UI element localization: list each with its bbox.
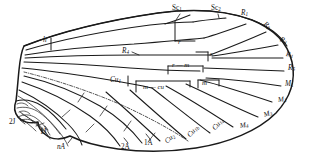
label-m4-sub: 4 <box>245 123 249 129</box>
label-1a-base: 1A <box>144 139 153 147</box>
label-sc2-sub: 2 <box>218 6 221 12</box>
label-cu1-sub: 1 <box>118 78 121 84</box>
leader-na <box>68 138 72 143</box>
label-1j: 1J <box>40 129 46 136</box>
label-m1: M1 <box>285 81 294 88</box>
label-sc1: Sc1 <box>172 5 182 12</box>
label-1a: 1A <box>144 140 153 147</box>
label-crossvein-m-cu-text: m — cu <box>143 83 164 90</box>
label-rs-inner: R4 <box>122 48 129 55</box>
label-crossvein-m-cu: m — cu <box>143 84 164 91</box>
label-na-base: nA <box>57 143 65 151</box>
label-sc2: Sc2 <box>211 5 221 12</box>
label-m4: M4 <box>239 122 249 131</box>
label-r5: R5 <box>288 65 295 72</box>
label-crossvein-r-m: r — m <box>172 62 189 69</box>
label-sc1-sub: 1 <box>179 6 182 12</box>
label-crossvein-r-m-text: r — m <box>172 61 189 68</box>
label-cu1: Cu1 <box>110 77 121 84</box>
label-r4: R4 <box>285 51 293 59</box>
label-crossvein-m: m <box>202 80 207 87</box>
label-m2: M2 <box>277 96 286 104</box>
label-crossvein-m-text: m <box>202 79 207 86</box>
label-2j-base: 2J <box>9 118 15 126</box>
label-2j: 2J <box>9 119 15 126</box>
label-m1-sub: 1 <box>291 82 294 88</box>
wing-venation-figure: h Sc1 Sc2 R1 R2 R3 R4 R5 R4 M1 M2 M3 M4 … <box>0 0 316 164</box>
label-crossvein-s-text: s <box>210 50 213 57</box>
label-r1: R1 <box>241 10 248 17</box>
label-h: h <box>43 37 47 44</box>
label-m2-sub: 2 <box>284 97 287 103</box>
label-2a-base: 2A <box>121 143 130 151</box>
label-r5-sub: 5 <box>292 66 295 72</box>
label-1j-base: 1J <box>40 128 46 136</box>
label-2a: 2A <box>121 144 130 151</box>
label-na: nA <box>57 144 65 151</box>
label-h-base: h <box>43 36 47 44</box>
label-crossvein-r: r <box>178 39 181 46</box>
label-rs-inner-sub: 4 <box>126 49 129 55</box>
label-r1-sub: 1 <box>245 11 248 17</box>
label-crossvein-r-text: r <box>178 38 181 45</box>
label-crossvein-s: s <box>210 51 213 58</box>
